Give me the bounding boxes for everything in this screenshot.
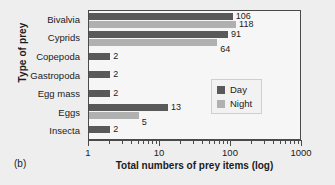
legend-swatch-night-icon	[217, 100, 225, 108]
bar-row-insecta: 2	[89, 121, 300, 139]
x-tick-minor	[298, 140, 299, 144]
bar-row-copepoda: 2	[89, 48, 300, 66]
bar-gastropoda-day[interactable]	[89, 71, 110, 78]
y-tick-label-eggs: Eggs	[18, 103, 84, 122]
bar-wrap-eggs-day: 13	[89, 104, 300, 111]
x-tick-minor	[290, 140, 291, 144]
y-tick-label-insecta: Insecta	[18, 121, 84, 140]
plot-area: 106 118 91 64	[88, 10, 301, 140]
bar-value-copepoda-day: 2	[113, 52, 118, 61]
x-tick-minor	[156, 140, 157, 144]
legend-label-night: Night	[230, 98, 252, 109]
x-tick-minor	[131, 140, 132, 144]
bar-wrap-cyprids-day: 91	[89, 31, 300, 38]
x-tick-minor	[209, 140, 210, 144]
x-tick-label-100: 100	[222, 147, 238, 158]
x-tick-minor	[264, 140, 265, 144]
bar-value-cyprids-day: 91	[231, 30, 241, 39]
x-tick-minor	[143, 140, 144, 144]
x-tick-major-1000	[301, 140, 302, 146]
panel-label: (b)	[14, 158, 26, 169]
y-axis-tick-labels: Bivalvia Cyprids Copepoda Gastropoda Egg…	[18, 10, 84, 140]
bar-cyprids-day[interactable]	[89, 31, 228, 38]
y-tick-label-copepoda: Copepoda	[18, 47, 84, 66]
x-tick-minor	[148, 140, 149, 144]
bar-row-egg-mass: 2	[89, 84, 300, 102]
bar-row-eggs: 13 5	[89, 102, 300, 120]
x-tick-major-100	[230, 140, 231, 146]
x-tick-minor	[214, 140, 215, 144]
x-tick-minor	[152, 140, 153, 144]
legend-entry-night[interactable]: Night	[217, 98, 252, 109]
x-tick-minor	[227, 140, 228, 144]
legend-swatch-day-icon	[217, 86, 225, 94]
bar-eggs-day[interactable]	[89, 104, 168, 111]
bar-group-container: 106 118 91 64	[89, 11, 300, 139]
legend-label-day: Day	[230, 84, 247, 95]
x-tick-label-10: 10	[154, 147, 165, 158]
bar-bivalvia-night[interactable]	[89, 21, 236, 28]
x-tick-minor	[223, 140, 224, 144]
y-tick-label-egg-mass: Egg mass	[18, 84, 84, 103]
bar-wrap-egg-mass-day: 2	[89, 90, 300, 97]
y-tick-label-cyprids: Cyprids	[18, 29, 84, 48]
figure-panel-b: Type of prey Bivalvia Cyprids Copepoda G…	[0, 0, 335, 185]
bar-value-gastropoda-day: 2	[113, 70, 118, 79]
x-tick-minor	[138, 140, 139, 144]
bar-row-bivalvia: 106 118	[89, 11, 300, 29]
bar-value-bivalvia-night: 118	[239, 20, 253, 29]
x-tick-label-1000: 1000	[290, 147, 311, 158]
x-tick-label-1: 1	[85, 147, 90, 158]
x-tick-minor	[109, 140, 110, 144]
bar-wrap-insecta-day: 2	[89, 126, 300, 133]
legend: Day Night	[211, 79, 262, 114]
bar-wrap-eggs-night: 5	[89, 112, 300, 119]
bar-copepoda-day[interactable]	[89, 53, 110, 60]
bar-egg-mass-day[interactable]	[89, 90, 110, 97]
bar-eggs-night[interactable]	[89, 112, 139, 119]
bar-insecta-day[interactable]	[89, 126, 110, 133]
bar-wrap-bivalvia-day: 106	[89, 13, 300, 20]
bar-wrap-bivalvia-night: 118	[89, 21, 300, 28]
bar-cyprids-night[interactable]	[89, 39, 217, 46]
bar-wrap-gastropoda-day: 2	[89, 71, 300, 78]
x-tick-minor	[294, 140, 295, 144]
x-axis: 1101001000	[88, 140, 301, 141]
bar-row-gastropoda: 2	[89, 66, 300, 84]
y-tick-label-bivalvia: Bivalvia	[18, 10, 84, 29]
bar-wrap-cyprids-night: 64	[89, 39, 300, 46]
x-tick-minor	[202, 140, 203, 144]
x-tick-major-10	[159, 140, 160, 146]
bar-wrap-copepoda-day: 2	[89, 53, 300, 60]
x-axis-title: Total numbers of prey items (log)	[88, 160, 301, 171]
x-tick-minor	[280, 140, 281, 144]
y-tick-label-gastropoda: Gastropoda	[18, 66, 84, 85]
x-tick-minor	[273, 140, 274, 144]
x-tick-minor	[251, 140, 252, 144]
bar-value-eggs-day: 13	[171, 103, 181, 112]
bar-value-insecta-day: 2	[113, 125, 118, 134]
bar-bivalvia-day[interactable]	[89, 13, 233, 20]
x-tick-minor	[193, 140, 194, 144]
x-tick-minor	[122, 140, 123, 144]
bar-value-egg-mass-day: 2	[113, 89, 118, 98]
x-tick-minor	[180, 140, 181, 144]
x-tick-minor	[219, 140, 220, 144]
legend-entry-day[interactable]: Day	[217, 84, 252, 95]
x-tick-major-1	[88, 140, 89, 146]
bar-row-cyprids: 91 64	[89, 29, 300, 47]
x-tick-minor	[285, 140, 286, 144]
